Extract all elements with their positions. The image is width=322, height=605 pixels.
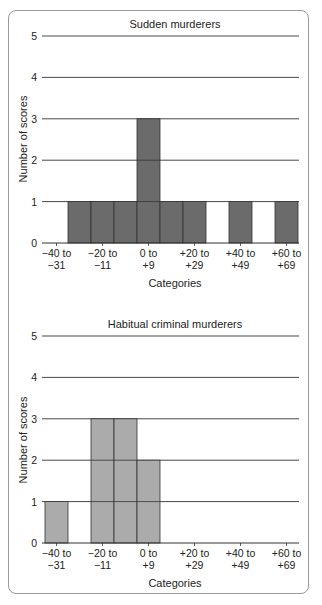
x-tick-label: +9 xyxy=(143,259,155,271)
x-tick-label: −40 to xyxy=(42,247,72,259)
chart-habitual-criminal-murderers: Habitual criminal murderers Categories N… xyxy=(17,318,301,589)
y-tick-label: 3 xyxy=(31,413,37,425)
bar xyxy=(45,502,68,543)
y-tick-label: 2 xyxy=(31,454,37,466)
bar xyxy=(137,119,160,243)
bar xyxy=(183,202,206,243)
chart-title: Sudden murderers xyxy=(129,18,221,30)
y-axis-label: Number of scores xyxy=(17,396,29,483)
plot-area: 012345−40 to−31−20 to−110 to+9+20 to+29+… xyxy=(31,30,301,271)
x-tick-label: −40 to xyxy=(42,547,72,559)
x-tick-label: +20 to xyxy=(180,247,210,259)
bar xyxy=(91,202,114,243)
x-tick-label: +40 to xyxy=(226,547,256,559)
x-tick-label: +60 to xyxy=(272,247,302,259)
bar xyxy=(114,419,137,543)
bar xyxy=(229,202,252,243)
x-tick-label: 0 to xyxy=(140,247,158,259)
chart-title: Habitual criminal murderers xyxy=(108,318,243,330)
bar xyxy=(114,202,137,243)
bar xyxy=(91,419,114,543)
y-tick-label: 1 xyxy=(31,496,37,508)
x-tick-label: +29 xyxy=(186,259,204,271)
chart-sudden-murderers: Sudden murderers Categories Number of sc… xyxy=(17,18,301,289)
y-tick-label: 2 xyxy=(31,154,37,166)
y-tick-label: 4 xyxy=(31,71,37,83)
y-tick-label: 0 xyxy=(31,237,37,249)
bar xyxy=(275,202,298,243)
y-tick-label: 1 xyxy=(31,196,37,208)
x-tick-label: +20 to xyxy=(180,547,210,559)
y-tick-label: 4 xyxy=(31,371,37,383)
x-tick-label: 0 to xyxy=(140,547,158,559)
y-axis-label: Number of scores xyxy=(17,95,29,182)
x-tick-label: −11 xyxy=(94,259,111,271)
y-tick-label: 0 xyxy=(31,537,37,549)
x-tick-label: +40 to xyxy=(226,247,256,259)
y-tick-label: 3 xyxy=(31,113,37,125)
x-tick-label: +69 xyxy=(278,259,296,271)
x-tick-label: +49 xyxy=(232,559,250,571)
x-tick-label: +69 xyxy=(278,559,296,571)
x-tick-label: −31 xyxy=(48,259,66,271)
x-axis-label: Categories xyxy=(148,577,202,589)
bar xyxy=(68,202,91,243)
x-tick-label: −11 xyxy=(94,559,111,571)
x-tick-label: −20 to xyxy=(88,547,118,559)
plot-area: 012345−40 to−31−20 to−110 to+9+20 to+29+… xyxy=(31,330,301,571)
x-tick-label: +60 to xyxy=(272,547,302,559)
x-tick-label: −31 xyxy=(48,559,66,571)
x-axis-label: Categories xyxy=(148,277,202,289)
x-tick-label: −20 to xyxy=(88,247,118,259)
y-tick-label: 5 xyxy=(31,330,37,342)
x-tick-label: +9 xyxy=(143,559,155,571)
x-tick-label: +29 xyxy=(186,559,204,571)
x-tick-label: +49 xyxy=(232,259,250,271)
bar xyxy=(160,202,183,243)
y-tick-label: 5 xyxy=(31,30,37,42)
figure: Sudden murderers Categories Number of sc… xyxy=(0,0,322,605)
